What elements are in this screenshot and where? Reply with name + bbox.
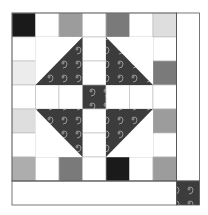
quilt-square-dark-gray xyxy=(106,13,130,37)
quilt-square-white xyxy=(36,13,60,37)
quilt-square-mid-gray xyxy=(153,157,177,181)
quilt-square-white xyxy=(36,157,60,181)
corner-square xyxy=(177,181,200,205)
quilt-square-white xyxy=(153,133,177,157)
quilt-square-white xyxy=(153,37,177,61)
quilt-square-white xyxy=(130,13,154,37)
quilt-square-white xyxy=(59,85,83,109)
quilt-square-mid-gray xyxy=(59,13,83,37)
quilt-square-dark-gray xyxy=(153,61,177,85)
quilt-square-white xyxy=(153,85,177,109)
quilt-square-white xyxy=(12,133,36,157)
quilt-square-pale-gray xyxy=(12,61,36,85)
right-border-strip xyxy=(177,13,200,181)
quilt-square-light-gray xyxy=(12,109,36,133)
quilt-square-black xyxy=(12,13,36,37)
quilt-square-white xyxy=(83,61,107,85)
quilt-square-white xyxy=(83,109,107,133)
quilt-square-white xyxy=(12,37,36,61)
quilt-square-white xyxy=(83,157,107,181)
quilt-square-white xyxy=(83,133,107,157)
quilt-square-black xyxy=(106,157,130,181)
quilt-square-white xyxy=(83,37,107,61)
quilt-square-gray xyxy=(12,157,36,181)
quilt-square-white xyxy=(83,13,107,37)
quilt-square-white xyxy=(130,85,154,109)
quilt-square-white xyxy=(36,85,60,109)
quilt-square-white xyxy=(106,85,130,109)
quilt-square-white xyxy=(130,157,154,181)
quilt-square-light-gray xyxy=(153,13,177,37)
quilt-square-white xyxy=(12,85,36,109)
quilt-square-dark-gray xyxy=(59,157,83,181)
quilt-square-mid-gray xyxy=(153,109,177,133)
quilt-block xyxy=(0,0,208,215)
bottom-border-strip xyxy=(12,181,177,205)
quilt-square-fabric xyxy=(83,85,107,109)
